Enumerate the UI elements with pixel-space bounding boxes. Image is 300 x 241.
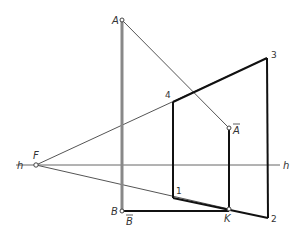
point-f-marker (34, 163, 38, 167)
label-vertex-3: 3 (271, 50, 277, 60)
label-vertex-2: 2 (271, 214, 277, 224)
edge-4-3 (173, 58, 267, 102)
label-f: F (33, 150, 39, 161)
label-vertex-4: 4 (165, 90, 171, 100)
edge-3-2 (267, 58, 268, 218)
label-abar: A (232, 125, 240, 136)
label-vertex-1: 1 (176, 186, 182, 196)
line-a-to-abar (122, 20, 229, 128)
label-bbar: B (126, 216, 133, 227)
label-h-left: h (17, 160, 23, 171)
label-b: B (111, 206, 118, 217)
point-k-marker (227, 207, 231, 211)
point-abar-marker (227, 126, 231, 130)
label-h-right: h (283, 160, 289, 171)
label-k: K (224, 213, 232, 224)
label-a: A (111, 15, 119, 26)
point-a-marker (120, 18, 124, 22)
edge-2-1 (173, 198, 268, 218)
point-b-marker (120, 209, 124, 213)
ray-f-to-k (36, 165, 229, 209)
perspective-diagram: A F h h B B A K 4 3 1 2 (0, 0, 300, 241)
